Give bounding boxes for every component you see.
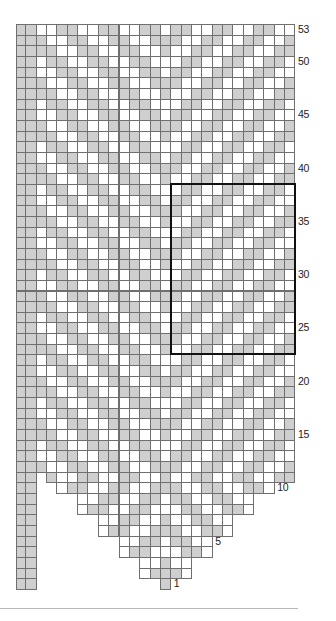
row-number-label: 45	[298, 109, 309, 120]
row-number-label: 53	[298, 24, 309, 35]
chart-cell	[243, 504, 254, 516]
row-number-label: 1	[174, 578, 180, 589]
row-number-label: 40	[298, 163, 309, 174]
chart-cell	[25, 578, 36, 590]
bottom-divider	[0, 608, 298, 609]
row-number-label: 15	[298, 429, 309, 440]
knitting-chart: 5350454035302520151051	[0, 0, 336, 621]
row-number-label: 10	[277, 482, 288, 493]
chart-cell	[222, 525, 233, 537]
row-number-label: 50	[298, 56, 309, 67]
row-number-label: 30	[298, 269, 309, 280]
chart-cell	[263, 482, 274, 494]
chart-cell	[160, 578, 171, 590]
row-number-label: 5	[215, 536, 221, 547]
row-number-label: 35	[298, 216, 309, 227]
chart-cell	[181, 568, 192, 580]
repeat-highlight-box	[170, 183, 297, 356]
chart-cell	[201, 546, 212, 558]
row-number-label: 25	[298, 322, 309, 333]
row-number-label: 20	[298, 376, 309, 387]
